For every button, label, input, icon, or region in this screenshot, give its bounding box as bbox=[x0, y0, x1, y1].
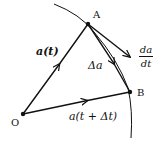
vector-delta-a bbox=[88, 24, 130, 92]
vector-a-t-plus-dt-label: a(t + Δt) bbox=[69, 111, 117, 122]
derivative-label: da dt bbox=[139, 45, 153, 69]
point-a-label: A bbox=[93, 10, 100, 20]
vector-a-t bbox=[23, 24, 88, 114]
derivative-denominator: dt bbox=[141, 57, 151, 69]
point-b-label: B bbox=[137, 88, 144, 98]
point-a-dot bbox=[86, 22, 90, 26]
vector-a-t-label: a(t) bbox=[36, 46, 59, 57]
point-o-label: O bbox=[11, 118, 19, 128]
vector-diagram: A B O a(t) a(t + Δt) Δa da dt bbox=[0, 0, 162, 144]
point-b-dot bbox=[128, 90, 132, 94]
derivative-numerator: da bbox=[140, 45, 152, 56]
vector-delta-a-label: Δa bbox=[88, 60, 103, 71]
point-o-dot bbox=[21, 112, 25, 116]
